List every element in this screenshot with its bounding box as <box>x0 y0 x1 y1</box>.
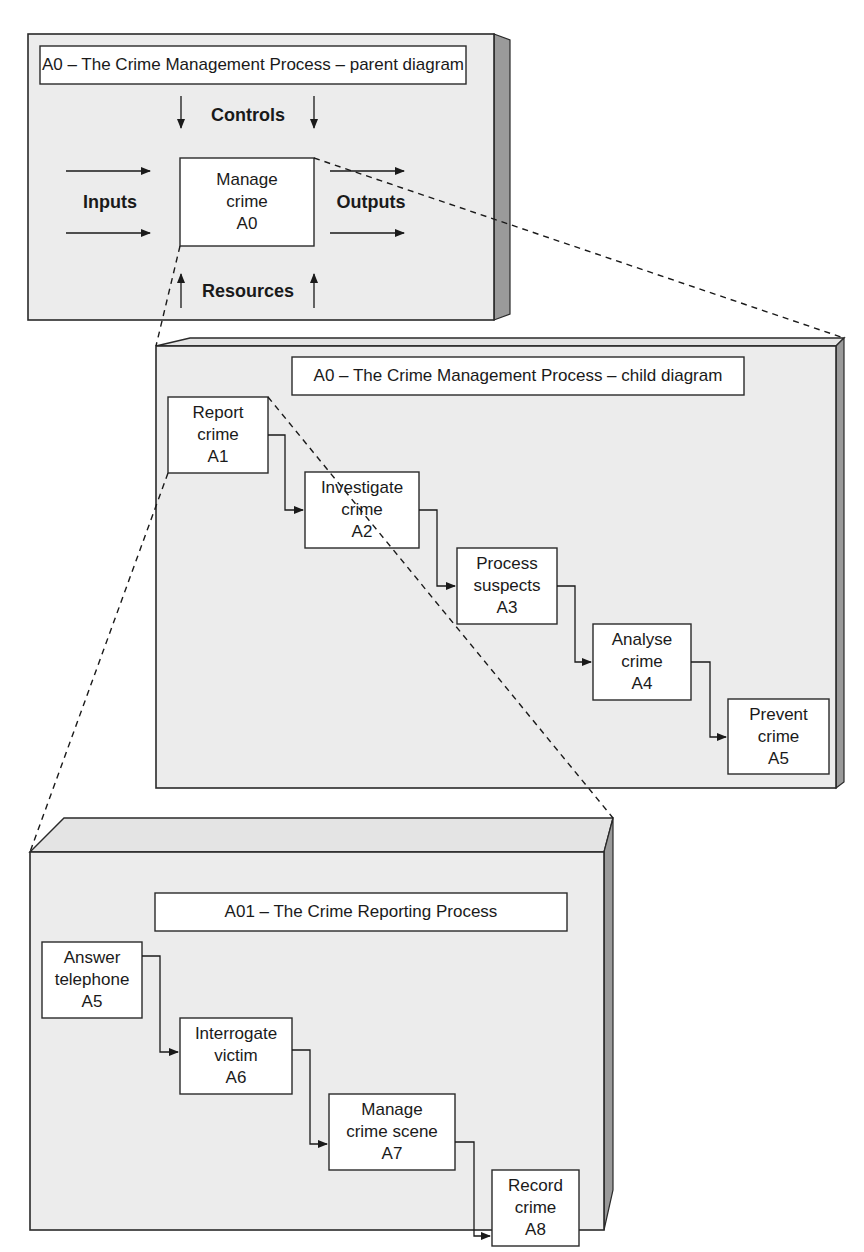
diagram-canvas <box>0 0 864 1252</box>
parent-frame-side <box>494 34 510 320</box>
activity-node-a1: Report crime A1 <box>168 397 268 473</box>
activity-node-answer-telephone: Answer telephone A5 <box>42 942 142 1018</box>
node-code: A8 <box>525 1219 546 1241</box>
node-code: A5 <box>768 748 789 770</box>
node-code: A0 <box>237 213 258 235</box>
node-code: A6 <box>226 1067 247 1089</box>
activity-node-a3: Process suspects A3 <box>457 548 557 624</box>
node-line1: Answer <box>64 947 121 969</box>
node-line2: crime <box>341 499 383 521</box>
node-line1: Process <box>476 553 537 575</box>
node-line2: crime <box>515 1197 557 1219</box>
node-code: A5 <box>82 991 103 1013</box>
node-line2: crime scene <box>346 1121 438 1143</box>
node-code: A4 <box>632 673 653 695</box>
node-line1: Report <box>192 402 243 424</box>
controls-label: Controls <box>196 104 300 126</box>
activity-node-a8: Record crime A8 <box>492 1170 579 1246</box>
node-line1: Prevent <box>749 704 808 726</box>
reporting-frame-side <box>604 818 613 1230</box>
outputs-label: Outputs <box>326 191 416 213</box>
activity-node-a2: Investigate crime A2 <box>305 472 419 548</box>
child-diagram-title: A0 – The Crime Management Process – chil… <box>292 358 744 394</box>
node-line1: Record <box>508 1175 563 1197</box>
manage-crime-node: Manage crime A0 <box>180 158 314 246</box>
node-line2: crime <box>758 726 800 748</box>
node-code: A3 <box>497 597 518 619</box>
child-frame-side <box>836 338 844 788</box>
activity-node-a6: Interrogate victim A6 <box>180 1018 292 1094</box>
node-line1: Manage <box>216 169 277 191</box>
reporting-frame-top <box>30 818 613 852</box>
child-frame-top <box>156 338 844 346</box>
zoom-line-child-left <box>30 473 168 852</box>
activity-node-a5: Prevent crime A5 <box>728 699 829 774</box>
activity-node-a4: Analyse crime A4 <box>593 624 691 700</box>
node-line2: crime <box>226 191 268 213</box>
node-line1: Investigate <box>321 477 403 499</box>
node-line1: Manage <box>361 1099 422 1121</box>
node-code: A7 <box>382 1143 403 1165</box>
node-line1: Analyse <box>612 629 672 651</box>
node-line2: victim <box>214 1045 257 1067</box>
node-line2: suspects <box>473 575 540 597</box>
node-code: A1 <box>208 446 229 468</box>
reporting-diagram-title: A01 – The Crime Reporting Process <box>155 894 567 930</box>
parent-diagram-title: A0 – The Crime Management Process – pare… <box>40 47 466 83</box>
resources-label: Resources <box>188 280 308 302</box>
node-line2: crime <box>621 651 663 673</box>
inputs-label: Inputs <box>70 191 150 213</box>
node-line1: Interrogate <box>195 1023 277 1045</box>
node-line2: telephone <box>55 969 130 991</box>
node-code: A2 <box>352 521 373 543</box>
activity-node-a7: Manage crime scene A7 <box>329 1094 455 1170</box>
node-line2: crime <box>197 424 239 446</box>
